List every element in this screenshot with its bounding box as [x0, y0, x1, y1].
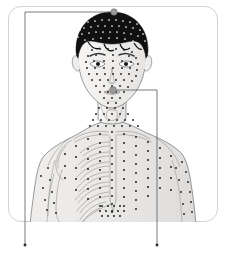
callout-terminus-dot [156, 244, 159, 247]
leader-line [113, 90, 157, 245]
callout-terminus-dot [24, 244, 27, 247]
cheek-callout [110, 87, 159, 247]
acupuncture-figure [0, 0, 226, 253]
vertex-callout [24, 9, 118, 247]
leader-line [25, 12, 114, 245]
callout-anchor-marker [111, 9, 117, 15]
callout-leader-lines [0, 0, 226, 253]
callout-anchor-marker [110, 87, 117, 94]
